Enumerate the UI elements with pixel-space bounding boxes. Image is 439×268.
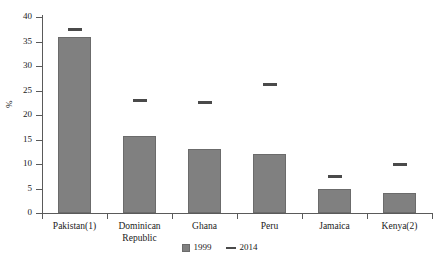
y-axis-tick-label: 5	[0, 184, 32, 193]
y-axis-tick	[36, 66, 42, 67]
x-axis-tick	[107, 213, 108, 219]
x-axis-tick	[42, 213, 43, 219]
legend-label-1999: 1999	[194, 243, 212, 252]
value-marker	[328, 175, 342, 178]
dash-marker-icon	[226, 247, 236, 249]
y-axis-tick-label: 15	[0, 135, 32, 144]
bar	[383, 193, 416, 213]
value-marker	[68, 28, 82, 31]
y-axis-tick	[36, 189, 42, 190]
bar-swatch-icon	[182, 244, 190, 252]
y-axis-tick	[36, 164, 42, 165]
x-axis-tick	[237, 213, 238, 219]
y-axis-tick-label: 30	[0, 61, 32, 70]
y-axis-tick	[36, 91, 42, 92]
y-axis-line	[42, 15, 43, 214]
y-axis-tick-label: 10	[0, 159, 32, 168]
y-axis-tick-label: 20	[0, 110, 32, 119]
y-axis-tick	[36, 17, 42, 18]
x-axis-tick	[302, 213, 303, 219]
y-axis-tick-label: 0	[0, 208, 32, 217]
x-axis-category-label: Pakistan(1)	[42, 221, 107, 233]
value-marker	[198, 101, 212, 104]
y-axis-title: %	[5, 101, 14, 109]
legend-label-2014: 2014	[240, 243, 258, 252]
legend-item-1999: 1999	[182, 243, 212, 252]
value-marker	[133, 99, 147, 102]
x-axis-category-label: Ghana	[172, 221, 237, 233]
bar	[253, 154, 286, 213]
chart-legend: 1999 2014	[0, 243, 439, 252]
y-axis-tick	[36, 115, 42, 116]
y-axis-tick	[36, 140, 42, 141]
legend-item-2014: 2014	[226, 243, 258, 252]
bar	[58, 37, 91, 213]
y-axis-tick	[36, 42, 42, 43]
x-axis-category-label: Jamaica	[302, 221, 367, 233]
y-axis-tick-label: 25	[0, 86, 32, 95]
x-axis-tick	[432, 213, 433, 219]
x-axis-tick	[172, 213, 173, 219]
x-axis-category-label: Peru	[237, 221, 302, 233]
bar-chart: % 0510152025303540 Pakistan(1)Dominican …	[0, 0, 439, 268]
y-axis-tick-label: 35	[0, 37, 32, 46]
x-axis-tick	[367, 213, 368, 219]
y-axis-tick-label: 40	[0, 12, 32, 21]
x-axis-category-label: Dominican Republic	[107, 221, 172, 244]
x-axis-category-label: Kenya(2)	[367, 221, 432, 233]
bar	[318, 189, 351, 214]
bar	[123, 136, 156, 213]
bar	[188, 149, 221, 213]
value-marker	[263, 83, 277, 86]
value-marker	[393, 163, 407, 166]
